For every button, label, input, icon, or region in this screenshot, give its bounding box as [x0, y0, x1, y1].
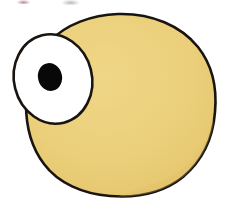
illustration-canvas: [0, 0, 236, 211]
blob-character-illustration: [0, 0, 236, 211]
